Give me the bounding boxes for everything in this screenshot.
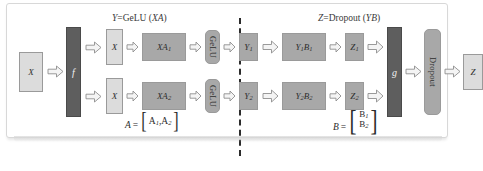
title-right-close: ) (377, 13, 380, 23)
node-gelu-bottom-label: GeLU (208, 85, 218, 107)
arrow-y1-to-y1b1 (262, 40, 279, 54)
node-input-x-label: X (28, 67, 34, 77)
arrow-z1-to-reduce (367, 40, 384, 54)
arrow-reduce-to-dropout (405, 65, 422, 78)
node-y1-label: Y1 (244, 42, 252, 52)
node-z1: Z1 (345, 33, 364, 61)
arrow-xa2-to-gelu-bottom (189, 90, 202, 102)
node-split-f-label: f (72, 67, 75, 78)
arrow-y1b1-to-z1 (329, 41, 342, 53)
formula-a: A=[A1,A2] (125, 116, 180, 130)
arrow-y2-to-y2b2 (262, 89, 279, 103)
title-right-branch: Z=Dropout (YB) (318, 13, 380, 23)
title-right-arg: YB (366, 13, 377, 23)
node-x-top: X (106, 29, 123, 65)
node-reduce-g: g (387, 27, 402, 117)
node-y2: Y2 (239, 82, 258, 110)
diagram-panel: Y=GeLU (XA) Z=Dropout (YB) X f X X XA1 X… (6, 3, 448, 138)
node-xa1: XA1 (142, 33, 186, 61)
node-input-x: X (19, 52, 43, 92)
node-split-f: f (66, 27, 81, 117)
node-x-bottom: X (106, 78, 123, 114)
formula-b: B=[B1B2] (333, 110, 379, 132)
node-gelu-top-label: GeLU (208, 36, 218, 58)
arrow-split-to-x-bottom (85, 90, 102, 103)
node-dropout-label: Dropout (428, 57, 438, 87)
title-left-eq: =GeLU ( (117, 13, 152, 23)
arrow-gelu-top-to-y1 (223, 41, 236, 53)
node-xa2-label: XA2 (157, 91, 171, 101)
node-y1: Y1 (239, 33, 258, 61)
node-xa1-label: XA1 (157, 42, 171, 52)
node-y1b1: Y1B1 (282, 33, 326, 61)
title-right-eq: =Dropout ( (323, 13, 366, 23)
arrow-xa1-to-gelu-top (189, 41, 202, 53)
arrow-x-bottom-to-xa2 (126, 90, 139, 102)
node-y2b2-label: Y2B2 (295, 91, 312, 101)
arrow-x-top-to-xa1 (126, 41, 139, 53)
title-left-close: ) (164, 13, 167, 23)
node-x-top-label: X (112, 42, 118, 52)
node-z1-label: Z1 (350, 42, 358, 52)
panel-shadow (14, 136, 442, 142)
arrow-y2b2-to-z2 (329, 90, 342, 102)
title-left-branch: Y=GeLU (XA) (112, 13, 167, 23)
node-gelu-top: GeLU (205, 30, 220, 64)
title-left-arg: XA (152, 13, 164, 23)
node-output-z-label: Z (470, 67, 475, 77)
arrow-z2-to-reduce (367, 89, 384, 103)
node-dropout: Dropout (424, 29, 441, 115)
node-y1b1-label: Y1B1 (295, 42, 312, 52)
node-y2b2: Y2B2 (282, 82, 326, 110)
arrow-input-to-split (47, 65, 64, 78)
node-y2-label: Y2 (244, 91, 252, 101)
arrow-split-to-x-top (85, 41, 102, 54)
arrow-dropout-to-output (444, 65, 461, 78)
arrow-gelu-bottom-to-y2 (223, 90, 236, 102)
node-gelu-bottom: GeLU (205, 79, 220, 113)
node-z2-label: Z2 (350, 91, 358, 101)
node-x-bottom-label: X (112, 91, 118, 101)
node-xa2: XA2 (142, 82, 186, 110)
node-output-z: Z (463, 54, 483, 90)
node-reduce-g-label: g (392, 67, 397, 78)
